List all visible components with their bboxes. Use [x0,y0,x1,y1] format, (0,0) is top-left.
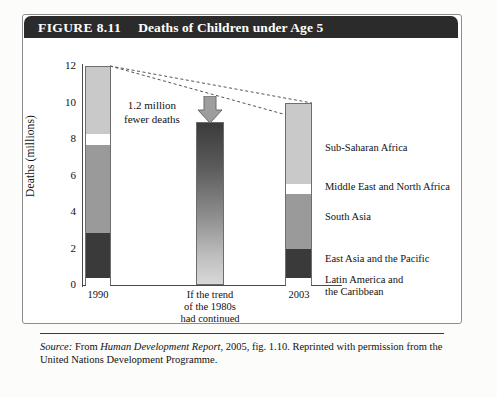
legend-label-latin-america-caribbean: Latin America and the Caribbean [325,274,403,298]
legend-label-latin-america-line-1: Latin America and [325,274,403,286]
bar-1990 [85,66,111,285]
x-label-counterfactual-line-1: If the trend [170,289,250,301]
legend-label-middle-east-north-africa: Middle East and North Africa [325,181,450,193]
source-prefix: Source: [40,341,72,352]
y-axis-title: Deaths (millions) [24,81,36,231]
y-axis-line [82,64,83,287]
y-tick-6: 6 [52,169,76,181]
x-label-counterfactual-line-2: of the 1980s [170,301,250,313]
legend-label-east-asia-pacific: East Asia and the Pacific [325,253,429,265]
legend-label-latin-america-line-2: the Caribbean [325,286,403,298]
y-tick-8: 8 [52,132,76,144]
segment-1990-east-asia-pacific [86,233,110,278]
segment-1990-middle-east-north-africa [86,134,110,145]
segment-2003-sub-saharan-africa [286,104,311,184]
source-note: Source: From Human Development Report, 2… [40,340,450,366]
down-arrow-icon [198,96,224,124]
segment-2003-east-asia-pacific [286,249,311,278]
source-italic-title: Human Development Report [100,341,220,352]
y-tick-10: 10 [52,96,76,108]
x-label-1990: 1990 [68,289,128,301]
bar-counterfactual-trend [196,122,224,285]
segment-1990-sub-saharan-africa [86,67,110,134]
segment-1990-latin-america-caribbean [86,278,110,286]
segment-2003-middle-east-north-africa [286,184,311,194]
x-label-counterfactual: If the trend of the 1980s had continued [170,289,250,325]
segment-2003-latin-america-caribbean [286,278,311,286]
figure-page: FIGURE 8.11Deaths of Children under Age … [0,0,497,397]
chart-plot-area: Deaths (millions) 12 10 8 6 4 2 0 1.2 mi… [0,0,497,397]
source-divider [40,333,444,334]
legend-label-sub-saharan-africa: Sub-Saharan Africa [325,142,408,154]
annotation-line-2: fewer deaths [124,113,180,127]
annotation-line-1: 1.2 million [124,99,180,113]
y-tick-2: 2 [52,242,76,254]
x-label-counterfactual-line-3: had continued [170,313,250,325]
source-text-1: From [72,341,100,352]
y-tick-12: 12 [52,59,76,71]
legend-label-south-asia: South Asia [325,211,371,223]
annotation-fewer-deaths: 1.2 million fewer deaths [124,99,180,126]
bar-2003 [285,103,312,285]
x-label-2003: 2003 [269,289,329,301]
segment-1990-south-asia [86,145,110,233]
segment-2003-south-asia [286,194,311,249]
y-tick-4: 4 [52,205,76,217]
